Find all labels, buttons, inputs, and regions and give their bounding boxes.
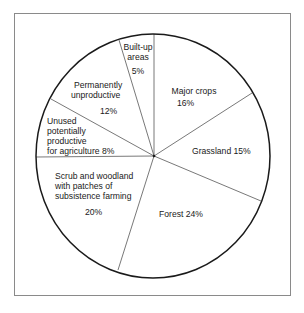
label-permanent: Permanently unproductive 12% <box>71 80 122 116</box>
pie-center <box>153 155 156 158</box>
label-forest: Forest 24% <box>159 209 203 219</box>
spoke-grassland-forest <box>154 156 261 201</box>
spoke-scrub-unused <box>36 156 154 157</box>
label-grassland: Grassland 15% <box>192 146 251 156</box>
label-builtup: Built-up areas 5% <box>121 42 155 76</box>
label-major-crops: Major crops 16% <box>164 86 224 108</box>
label-scrub: Scrub and woodland with patches of subsi… <box>55 171 133 217</box>
label-unused: Unused potentially productive for agricu… <box>47 116 114 156</box>
